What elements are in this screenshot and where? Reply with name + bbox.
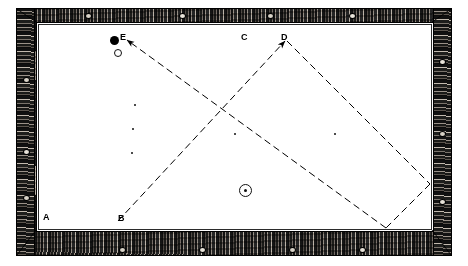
point-label-b: B: [118, 214, 125, 223]
frame-knot: [24, 150, 29, 154]
point-label-a: A: [43, 213, 50, 222]
table-cushion-line: [38, 24, 432, 230]
frame-knot: [290, 248, 295, 252]
cue-ball-open: [114, 49, 122, 57]
table-spot: [132, 128, 134, 130]
point-label-c: C: [241, 33, 248, 42]
table-frame-left-rail: [16, 8, 35, 256]
point-label-e: E: [120, 33, 126, 42]
frame-knot: [200, 248, 205, 252]
table-bed: [36, 22, 434, 232]
frame-knot: [440, 132, 445, 136]
frame-knot: [24, 78, 29, 82]
frame-knot: [268, 14, 273, 18]
frame-knot: [360, 248, 365, 252]
frame-knot: [440, 60, 445, 64]
table-spot: [131, 152, 133, 154]
target-ball-spot: [239, 184, 252, 197]
frame-knot: [120, 248, 125, 252]
frame-knot: [86, 14, 91, 18]
table-spot: [234, 133, 236, 135]
frame-knot: [350, 14, 355, 18]
frame-knot: [24, 196, 29, 200]
frame-knot: [180, 14, 185, 18]
object-ball-black: [110, 36, 119, 45]
diagram-canvas: ABCDE: [0, 0, 468, 266]
frame-knot: [440, 200, 445, 204]
table-spot: [334, 133, 336, 135]
point-label-d: D: [281, 33, 288, 42]
table-spot: [134, 104, 136, 106]
